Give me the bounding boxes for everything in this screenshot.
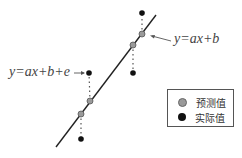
predicted-point xyxy=(87,98,93,104)
actual-dot-icon xyxy=(178,113,186,121)
arrow-head-icon xyxy=(150,35,155,39)
actual-point xyxy=(78,136,84,142)
legend-item-predicted: 预测值 xyxy=(178,95,226,109)
predicted-point xyxy=(78,111,84,117)
residual-lines xyxy=(81,13,142,139)
actual-point xyxy=(139,10,145,16)
predicted-point xyxy=(130,42,136,48)
residual-line xyxy=(89,73,90,101)
line-equation-label: y=ax+b xyxy=(174,31,219,47)
actual-point xyxy=(86,70,92,76)
line-label-arrow xyxy=(152,36,171,41)
data-points xyxy=(78,10,145,142)
predicted-point xyxy=(139,31,145,37)
legend-item-actual: 实际值 xyxy=(178,110,225,124)
actual-equation-label: y=ax+b+e xyxy=(9,64,70,80)
legend-label: 预测值 xyxy=(196,95,226,110)
actual-point xyxy=(130,70,136,76)
legend: 预测值 实际值 xyxy=(167,89,234,127)
predicted-dot-icon xyxy=(178,98,187,107)
arrow-head-icon xyxy=(81,71,85,75)
legend-label: 实际值 xyxy=(195,110,225,125)
